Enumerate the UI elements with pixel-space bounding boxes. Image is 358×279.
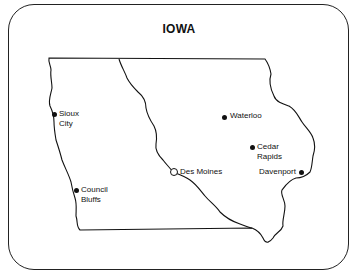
city-dot-cedar-rapids [250,145,255,150]
city-label-waterloo: Waterloo [230,111,262,121]
city-dot-sioux-city [52,112,57,117]
city-dot-waterloo [222,115,227,120]
iowa-outline [0,0,358,279]
city-label-davenport: Davenport [259,167,296,177]
river-line [119,59,252,228]
city-label-des-moines: Des Moines [180,167,222,177]
city-label-council-bluffs: CouncilBluffs [81,185,108,205]
city-label-cedar-rapids: CedarRapids [257,142,282,162]
capital-star-icon-des-moines [170,168,178,176]
city-label-sioux-city: SiouxCity [59,109,79,129]
city-dot-council-bluffs [74,188,79,193]
city-dot-davenport [299,170,304,175]
